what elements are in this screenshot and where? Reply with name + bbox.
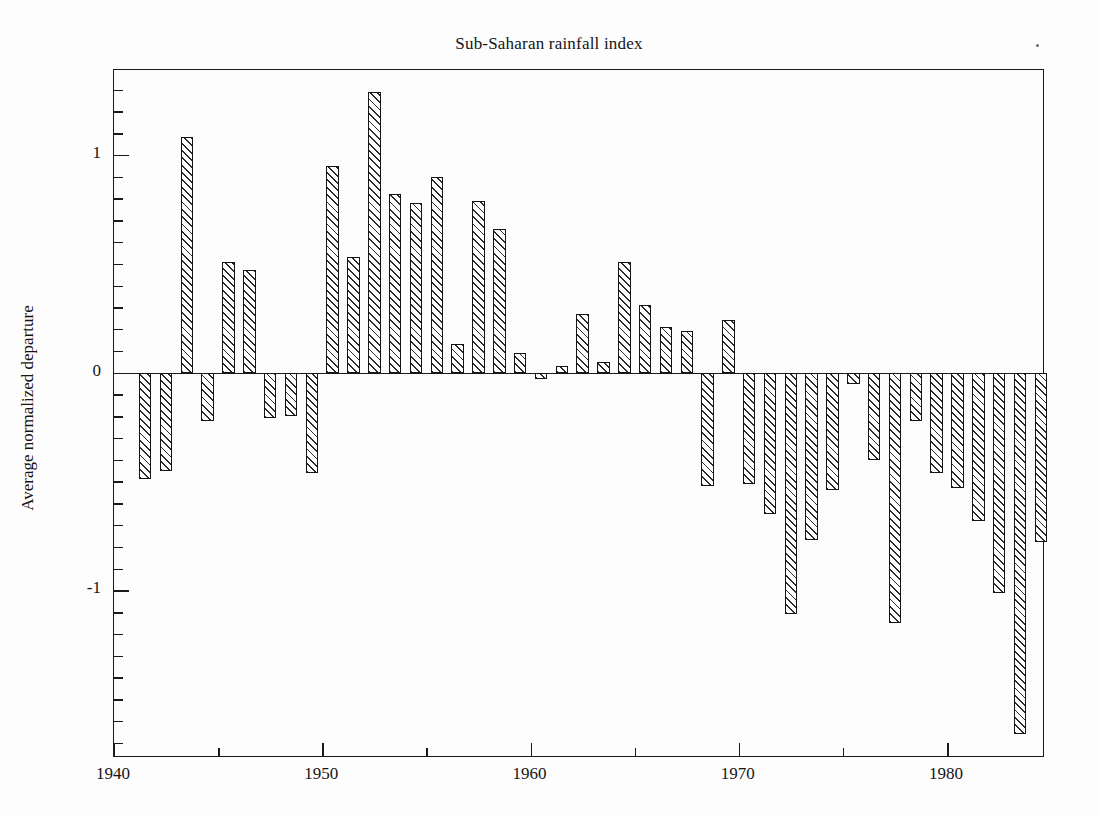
bar — [597, 362, 609, 373]
y-tick-label: 0 — [41, 361, 101, 381]
y-tick-minor — [114, 286, 123, 287]
bar — [285, 373, 297, 417]
bar — [556, 366, 568, 373]
y-tick-minor — [114, 525, 123, 526]
y-tick-major — [114, 373, 129, 374]
y-tick-minor — [114, 547, 123, 548]
bar — [201, 373, 213, 421]
y-tick-minor — [114, 242, 123, 243]
y-axis-title: Average normalized departure — [18, 208, 38, 608]
chart-figure: Sub-Saharan rainfall index Average norma… — [0, 0, 1098, 816]
x-tick-label: 1960 — [490, 764, 570, 784]
y-tick-minor — [114, 329, 123, 330]
bar — [660, 327, 672, 373]
bar — [889, 373, 901, 623]
y-tick-major — [114, 590, 129, 591]
bar — [431, 177, 443, 373]
bar — [764, 373, 776, 515]
y-tick-minor — [114, 677, 123, 678]
y-tick-minor — [114, 111, 123, 112]
bar — [410, 203, 422, 373]
chart-title: Sub-Saharan rainfall index — [0, 34, 1098, 54]
x-tick-minor — [843, 748, 844, 756]
bar — [493, 229, 505, 373]
y-tick-major — [114, 155, 129, 156]
bar — [722, 320, 734, 372]
y-tick-minor — [114, 721, 123, 722]
x-tick-minor — [635, 748, 636, 756]
y-tick-minor — [114, 503, 123, 504]
bar — [306, 373, 318, 473]
plot-area — [114, 70, 1043, 756]
bar — [472, 201, 484, 373]
bar — [701, 373, 713, 486]
y-tick-minor — [114, 438, 123, 439]
plot-frame — [113, 69, 1044, 757]
y-tick-minor — [114, 198, 123, 199]
y-tick-minor — [114, 656, 123, 657]
y-tick-minor — [114, 481, 123, 482]
x-tick-major — [322, 743, 323, 756]
y-tick-minor — [114, 90, 123, 91]
bar — [993, 373, 1005, 593]
bar — [535, 373, 547, 380]
y-tick-minor — [114, 133, 123, 134]
y-tick-label: 1 — [41, 143, 101, 163]
y-tick-minor — [114, 460, 123, 461]
bar — [160, 373, 172, 471]
bar — [847, 373, 859, 384]
y-tick-minor — [114, 220, 123, 221]
bar — [243, 270, 255, 372]
bar — [910, 373, 922, 421]
y-tick-minor — [114, 634, 123, 635]
x-tick-label: 1950 — [281, 764, 361, 784]
y-tick-minor — [114, 612, 123, 613]
bar — [326, 166, 338, 373]
x-tick-label: 1940 — [73, 764, 153, 784]
bar — [951, 373, 963, 488]
bar — [264, 373, 276, 419]
bar — [451, 344, 463, 372]
x-tick-minor — [426, 748, 427, 756]
x-tick-minor — [218, 748, 219, 756]
bar — [826, 373, 838, 491]
bar — [514, 353, 526, 373]
bar — [576, 314, 588, 373]
bar — [785, 373, 797, 615]
bar — [222, 262, 234, 373]
y-tick-minor — [114, 351, 123, 352]
y-tick-minor — [114, 394, 123, 395]
x-tick-major — [114, 743, 115, 756]
y-tick-minor — [114, 177, 123, 178]
page-speck — [1036, 44, 1039, 47]
bar — [181, 137, 193, 372]
bar — [868, 373, 880, 460]
zero-baseline — [114, 373, 1043, 374]
x-tick-major — [947, 743, 948, 756]
y-tick-label: -1 — [41, 578, 101, 598]
x-tick-major — [739, 743, 740, 756]
y-tick-minor — [114, 416, 123, 417]
bar — [743, 373, 755, 484]
bar — [930, 373, 942, 473]
bar — [972, 373, 984, 521]
bar — [389, 194, 401, 373]
bar — [805, 373, 817, 541]
bar — [618, 262, 630, 373]
bar — [1035, 373, 1047, 543]
bar — [139, 373, 151, 480]
y-tick-minor — [114, 699, 123, 700]
bar — [368, 92, 380, 373]
bar — [681, 331, 693, 372]
y-tick-minor — [114, 264, 123, 265]
x-tick-label: 1980 — [906, 764, 986, 784]
x-tick-label: 1970 — [698, 764, 778, 784]
bar — [1014, 373, 1026, 734]
x-tick-major — [531, 743, 532, 756]
y-tick-minor — [114, 307, 123, 308]
y-tick-minor — [114, 569, 123, 570]
bar — [639, 305, 651, 372]
bar — [347, 257, 359, 372]
